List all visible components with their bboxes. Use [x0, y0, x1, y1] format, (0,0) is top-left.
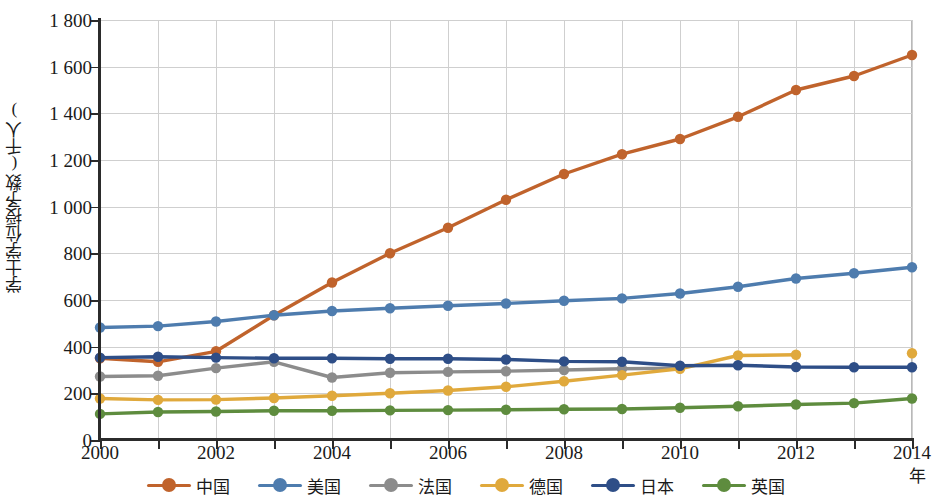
legend-item-美国[interactable]: 美国 — [258, 473, 341, 498]
data-point — [849, 71, 859, 81]
data-point — [791, 273, 801, 283]
y-axis-tick-label: 200 — [64, 384, 93, 403]
data-point — [559, 296, 569, 306]
legend-label: 法国 — [418, 473, 452, 498]
data-point — [385, 248, 395, 258]
y-axis-tick — [91, 20, 100, 22]
data-point — [443, 367, 453, 377]
series-line — [100, 267, 912, 327]
data-point — [501, 354, 511, 364]
data-point — [791, 85, 801, 95]
y-axis-tick-labels: 02004006008001 0001 2001 4001 6001 800 — [0, 0, 92, 460]
data-point — [501, 382, 511, 392]
legend-swatch-icon — [258, 478, 302, 492]
y-axis-tick — [91, 67, 100, 69]
data-point — [269, 406, 279, 416]
legend-swatch-icon — [480, 478, 524, 492]
data-point — [559, 376, 569, 386]
data-point — [559, 404, 569, 414]
chart-figure: 学士学位授予数(千人) 02004006008001 0001 2001 400… — [0, 0, 932, 503]
data-point — [211, 394, 221, 404]
x-axis-tick-labels: 20002002200420062008201020122014 — [0, 442, 932, 470]
data-point — [443, 405, 453, 415]
data-point — [269, 393, 279, 403]
plot-area — [100, 20, 912, 440]
data-point — [675, 288, 685, 298]
data-point — [733, 112, 743, 122]
data-point — [907, 50, 917, 60]
y-axis-tick-label: 1 400 — [49, 104, 92, 123]
data-point — [327, 391, 337, 401]
data-point — [443, 223, 453, 233]
y-axis-tick-label: 800 — [64, 244, 93, 263]
chart-legend: 中国美国法国德国日本英国 — [0, 470, 932, 500]
data-point — [907, 393, 917, 403]
y-axis-tick-label: 1 800 — [49, 11, 92, 30]
data-point — [849, 362, 859, 372]
y-axis-tick-label: 400 — [64, 338, 93, 357]
data-point — [675, 361, 685, 371]
legend-item-英国[interactable]: 英国 — [702, 473, 785, 498]
data-point — [211, 316, 221, 326]
data-point — [675, 403, 685, 413]
data-point — [327, 277, 337, 287]
data-point — [501, 195, 511, 205]
data-point — [327, 353, 337, 363]
series-lines — [100, 20, 912, 440]
data-point — [849, 268, 859, 278]
data-point — [385, 303, 395, 313]
y-axis-tick-label: 1 000 — [49, 198, 92, 217]
legend-item-中国[interactable]: 中国 — [147, 473, 230, 498]
y-axis-tick — [91, 253, 100, 255]
data-point — [443, 385, 453, 395]
data-point — [153, 352, 163, 362]
data-point — [385, 368, 395, 378]
x-axis-tick-label: 2000 — [81, 442, 119, 464]
data-point — [385, 388, 395, 398]
data-point — [153, 407, 163, 417]
data-point — [849, 398, 859, 408]
y-axis-tick — [91, 207, 100, 209]
gridline-vertical — [912, 20, 913, 440]
data-point — [791, 399, 801, 409]
y-axis-tick — [91, 300, 100, 302]
data-point — [907, 262, 917, 272]
data-point — [443, 354, 453, 364]
y-axis-tick-label: 600 — [64, 291, 93, 310]
y-axis-tick-label: 1 200 — [49, 151, 92, 170]
data-point — [501, 298, 511, 308]
legend-swatch-icon — [369, 478, 413, 492]
legend-swatch-icon — [147, 478, 191, 492]
data-point — [327, 306, 337, 316]
x-axis-tick-label: 2010 — [661, 442, 699, 464]
legend-swatch-icon — [591, 478, 635, 492]
data-point — [559, 356, 569, 366]
data-point — [385, 354, 395, 364]
data-point — [617, 293, 627, 303]
data-point — [791, 362, 801, 372]
data-point — [153, 321, 163, 331]
data-point — [443, 301, 453, 311]
data-point — [153, 371, 163, 381]
legend-label: 中国 — [196, 473, 230, 498]
legend-item-德国[interactable]: 德国 — [480, 473, 563, 498]
y-axis-tick — [91, 347, 100, 349]
data-point — [617, 404, 627, 414]
data-point — [385, 405, 395, 415]
data-point — [733, 350, 743, 360]
data-point — [211, 352, 221, 362]
legend-label: 日本 — [640, 473, 674, 498]
data-point — [791, 350, 801, 360]
legend-label: 德国 — [529, 473, 563, 498]
data-point — [617, 370, 627, 380]
y-axis-tick — [91, 393, 100, 395]
data-point — [733, 282, 743, 292]
y-axis-tick — [91, 160, 100, 162]
data-point — [501, 366, 511, 376]
data-point — [501, 405, 511, 415]
legend-item-日本[interactable]: 日本 — [591, 473, 674, 498]
legend-item-法国[interactable]: 法国 — [369, 473, 452, 498]
data-point — [617, 357, 627, 367]
data-point — [211, 406, 221, 416]
series-line — [100, 55, 912, 362]
